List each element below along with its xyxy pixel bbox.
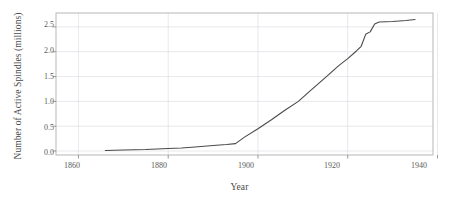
axis-ticks: [53, 27, 438, 159]
data-series-line: [105, 19, 415, 150]
chart-figure: Number of Active Spindles (millions) Yea…: [0, 0, 451, 205]
plot-frame: [56, 13, 433, 155]
gridlines: [56, 13, 437, 155]
plot-area: [0, 0, 451, 205]
